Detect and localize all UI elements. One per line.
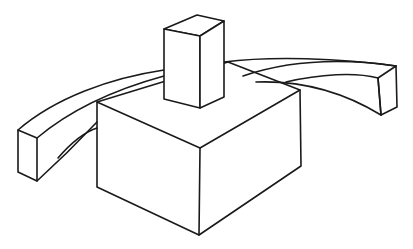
diagram-canvas (0, 0, 413, 249)
small-box (164, 15, 224, 108)
curved-beam-left (18, 70, 164, 181)
curved-beam-right (224, 59, 397, 115)
